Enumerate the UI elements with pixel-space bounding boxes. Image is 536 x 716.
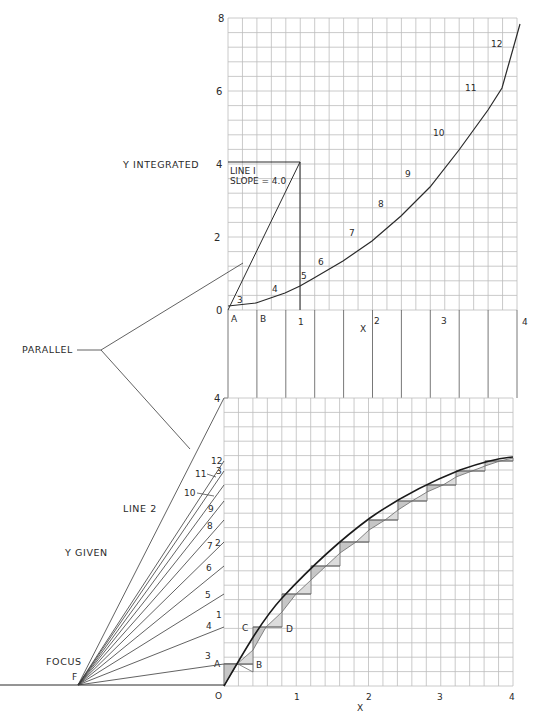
- line1-label: LINE I: [230, 166, 256, 176]
- upper-x-label: X: [360, 324, 366, 334]
- ray-label-4: 4: [206, 621, 212, 631]
- lower-y-label: Y GIVEN: [64, 547, 108, 558]
- focus-rays: [78, 398, 224, 685]
- lower-x-tick-1: 1: [294, 692, 300, 702]
- upper-x-marker-b: B: [260, 314, 266, 324]
- lower-x-tick-3: 3: [437, 692, 443, 702]
- line2-label: LINE 2: [123, 503, 157, 514]
- upper-x-tick-2: 2: [374, 316, 380, 326]
- integral-curve: [228, 24, 520, 306]
- upper-y-tick-6: 6: [216, 86, 222, 97]
- y-ref-label-3: 3: [216, 466, 222, 476]
- upper-x-marker-a: A: [231, 314, 238, 324]
- upper-y-ticks: 0 2 4 6 8: [214, 13, 224, 316]
- segment-label-8: 8: [378, 199, 384, 209]
- segment-label-5: 5: [301, 271, 307, 281]
- lower-x-tick-2: 2: [366, 692, 372, 702]
- segment-label-4: 4: [272, 284, 278, 294]
- step-marker-a: A: [214, 659, 221, 669]
- ray-label-8: 8: [207, 521, 213, 531]
- ray-label-5: 5: [205, 590, 211, 600]
- connector-band: [224, 310, 517, 398]
- upper-y-tick-2: 2: [214, 232, 220, 243]
- segment-label-7: 7: [349, 228, 355, 238]
- segment-label-9: 9: [405, 169, 411, 179]
- segment-label-10: 10: [433, 128, 445, 138]
- lower-y-tick-4: 4: [214, 393, 220, 404]
- y-ref-label-1: 1: [216, 610, 222, 620]
- upper-y-tick-8: 8: [218, 13, 224, 24]
- focus-point-label: F: [72, 672, 77, 682]
- upper-x-tick-3: 3: [441, 316, 447, 326]
- upper-grid: [228, 18, 517, 310]
- segment-label-3: 3: [237, 295, 243, 305]
- y-ref-label-2: 2: [215, 538, 221, 548]
- step-marker-b: B: [256, 660, 262, 670]
- segment-label-12: 12: [491, 39, 502, 49]
- parallel-annotation: [77, 263, 243, 449]
- ray-label-9: 9: [208, 504, 214, 514]
- ray-label-3: 3: [205, 651, 211, 661]
- integration-diagram: 0 2 4 6 8 Y INTEGRATED LINE I SLOPE = 4.…: [0, 0, 536, 716]
- step-marker-d: D: [286, 624, 293, 634]
- lower-x-ticks: O 1 2 3 4 X: [215, 691, 515, 713]
- ray-label-7: 7: [207, 541, 213, 551]
- lower-x-tick-origin: O: [215, 691, 222, 701]
- upper-segment-labels: 3 4 5 6 7 8 9 10 11 12: [237, 39, 502, 305]
- upper-x-tick-1: 1: [298, 317, 304, 327]
- focus-label: FOCUS: [46, 656, 82, 667]
- ray-label-12: 12: [211, 456, 222, 466]
- line2-ray: [78, 398, 224, 685]
- parallel-label: PARALLEL: [22, 344, 73, 355]
- lower-x-tick-4: 4: [509, 692, 515, 702]
- lower-x-label: X: [357, 703, 363, 713]
- segment-label-11: 11: [465, 83, 476, 93]
- upper-y-label: Y INTEGRATED: [122, 159, 199, 170]
- ray-label-11: 11: [195, 469, 206, 479]
- segment-label-6: 6: [318, 257, 324, 267]
- ray-label-6: 6: [206, 563, 212, 573]
- upper-y-tick-0: 0: [216, 305, 222, 316]
- upper-x-ticks: A B 1 2 3 4 X: [231, 314, 528, 334]
- step-marker-c: C: [242, 623, 248, 633]
- upper-x-tick-4: 4: [522, 317, 528, 327]
- ray-label-10: 10: [184, 488, 196, 498]
- line1-slope-label: SLOPE = 4.0: [230, 176, 286, 186]
- upper-y-tick-4: 4: [216, 159, 222, 170]
